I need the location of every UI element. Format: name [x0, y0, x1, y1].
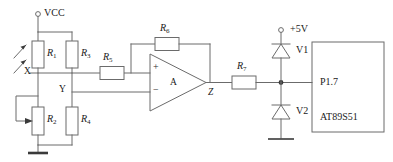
r6-sub: 6	[166, 27, 170, 35]
node-z-label: Z	[208, 88, 213, 98]
r2-body	[32, 107, 44, 135]
v2-label: V2	[296, 106, 308, 116]
r5-sub: 5	[109, 56, 113, 64]
chip-pin-label: P1.7	[320, 77, 338, 87]
r3-resistor	[66, 41, 78, 68]
r4-resistor	[66, 107, 78, 135]
ground-net-left	[28, 135, 72, 153]
r6-label: R6	[160, 23, 170, 35]
r3-body	[66, 41, 78, 68]
opamp-minus-label: −	[153, 85, 159, 95]
light-arrow-1-head	[21, 45, 27, 50]
vcc-label: VCC	[44, 8, 65, 18]
light-arrow-2-head	[21, 60, 27, 65]
r3-label: R3	[81, 48, 91, 60]
r3-sub: 3	[87, 52, 91, 60]
r5-resistor	[100, 67, 124, 80]
r4-label: R4	[81, 114, 91, 126]
r6-feedback-net	[131, 38, 210, 83]
r5-body	[100, 67, 124, 80]
node-x-label: X	[24, 67, 31, 77]
v1-label: V1	[296, 45, 308, 55]
r6-body	[155, 38, 179, 51]
r5-label: R5	[103, 52, 113, 64]
r1-body	[32, 41, 44, 68]
r2-potentiometer	[16, 96, 44, 135]
v2-clamp-net	[268, 83, 294, 140]
r4-body	[66, 107, 78, 135]
v1-clamp-net	[272, 28, 290, 83]
r2-label: R2	[47, 114, 57, 126]
node-x-net	[30, 68, 150, 107]
r7-body	[232, 76, 256, 89]
opamp-label: A	[170, 78, 177, 88]
r4-sub: 4	[87, 118, 91, 126]
r1-photoresistor	[32, 41, 44, 68]
v2-triangle	[272, 105, 290, 119]
v5-label: +5V	[290, 24, 308, 34]
r7-sub: 7	[243, 65, 247, 73]
r7-label: R7	[237, 61, 247, 73]
v5-terminal-circle	[279, 28, 284, 33]
chip-part-label: AT89S51	[320, 112, 358, 122]
r1-label: R1	[47, 48, 57, 60]
vcc-terminal-circle	[36, 12, 41, 17]
opamp-plus-label: +	[153, 62, 159, 72]
node-y-label: Y	[59, 85, 66, 95]
r2-sub: 2	[53, 118, 57, 126]
circuit-diagram-canvas: VCC +5V R1 R3 R5 R6 R7 R2 R4 X Y Z + − A…	[0, 0, 393, 162]
r1-sub: 1	[53, 52, 57, 60]
node-z-net	[206, 76, 312, 89]
v1-triangle	[272, 44, 290, 58]
